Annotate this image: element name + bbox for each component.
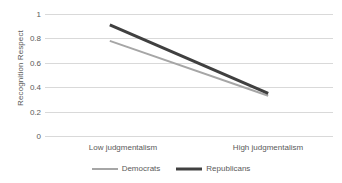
y-tick-label: 1 [7,10,41,19]
y-tick-label: 0.8 [7,34,41,43]
series-line-democrats [110,41,268,96]
series-line-republicans [110,25,268,93]
x-axis-tick-labels: Low judgmentalism High judgmentalism [45,142,333,154]
x-tick-label-high: High judgmentalism [198,142,338,154]
y-tick-label: 0.4 [7,83,41,92]
legend-swatch-republicans [176,165,202,173]
plot-area [45,14,333,136]
y-tick-label: 0.6 [7,59,41,68]
legend-item-republicans: Republicans [176,163,250,175]
legend-swatch-democrats [92,165,118,173]
legend-item-democrats: Democrats [92,163,161,175]
chart-legend: Democrats Republicans [0,161,342,177]
y-axis-tick-labels: 1 0.8 0.6 0.4 0.2 0 [0,14,41,136]
x-tick-label-low: Low judgmentalism [53,142,193,154]
gridline [45,136,333,137]
series-lines [45,14,333,136]
legend-label-republicans: Republicans [206,163,250,175]
line-chart: Recognition Respect 1 0.8 0.6 0.4 0.2 0 … [0,0,342,183]
y-tick-label: 0 [7,132,41,141]
legend-label-democrats: Democrats [122,163,161,175]
y-tick-label: 0.2 [7,108,41,117]
